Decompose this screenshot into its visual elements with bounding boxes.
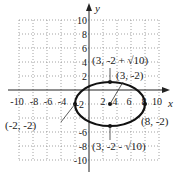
svg-text:4: 4	[82, 57, 87, 68]
y-axis-label: y	[94, 2, 100, 14]
point-right-vertex	[143, 102, 147, 106]
svg-text:2: 2	[82, 71, 87, 82]
svg-text:8: 8	[82, 29, 87, 40]
svg-text:-10: -10	[10, 96, 23, 107]
svg-text:-6: -6	[44, 96, 52, 107]
svg-text:-10: -10	[74, 155, 87, 166]
svg-text:2: 2	[101, 96, 106, 107]
svg-text:-8: -8	[79, 141, 87, 152]
label-right-vertex: (8, -2)	[141, 115, 169, 128]
svg-text:4: 4	[113, 96, 118, 107]
svg-text:6: 6	[82, 43, 87, 54]
x-axis-arrow-icon	[162, 87, 170, 93]
y-axis-arrow-icon	[86, 3, 92, 11]
svg-text:6: 6	[127, 96, 132, 107]
svg-text:-4: -4	[58, 96, 66, 107]
x-tick-labels: -10 -8 -6 -4 2 4 6 8 10	[10, 96, 162, 107]
svg-text:10: 10	[152, 96, 162, 107]
x-axis-label: x	[167, 97, 173, 109]
label-left-vertex: (-2, -2)	[5, 119, 36, 132]
ellipse-graph: x y -10 -8 -6 -4 2 4 6 8 10 10 8 6 4 2 -…	[0, 0, 184, 176]
label-bottom-vertex: (3, -2 - √10)	[92, 140, 146, 153]
svg-text:-6: -6	[79, 127, 87, 138]
svg-text:10: 10	[77, 15, 87, 26]
label-top-vertex: (3, -2 + √10)	[92, 54, 149, 67]
svg-text:-8: -8	[30, 96, 38, 107]
label-center: (3, -2)	[116, 69, 144, 82]
